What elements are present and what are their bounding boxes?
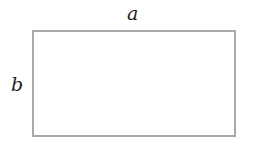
side-label-a: a: [127, 4, 138, 23]
side-label-b: b: [11, 75, 23, 94]
rectangle: [32, 30, 236, 137]
